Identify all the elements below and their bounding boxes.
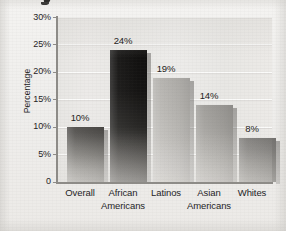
bar-whites[interactable] — [239, 138, 276, 182]
bar-african-americans[interactable] — [110, 50, 147, 182]
bar-overall-shadow — [104, 130, 108, 184]
plot-area — [57, 17, 272, 182]
bar-value-asian-americans: 14% — [189, 90, 229, 101]
bar-overall-fill — [67, 127, 104, 182]
y-axis-title: Percentage — [22, 69, 32, 113]
bar-value-whites: 8% — [232, 123, 272, 134]
x-label-whites-line-1: Whites — [227, 187, 277, 200]
bar-latinos-fill — [153, 78, 190, 182]
chart-screenshot: 30% 25% 20% 15% 10% 5% 0 Percentage — [0, 0, 286, 231]
gridline-30 — [57, 17, 272, 18]
bar-value-african-americans: 24% — [103, 35, 143, 46]
bar-overall[interactable] — [67, 127, 104, 182]
y-axis-title-wrap: Percentage — [22, 0, 36, 231]
y-axis-line — [56, 16, 58, 183]
y-tick-label-5: 5% — [38, 149, 51, 159]
x-label-african-americans-line-2: Americans — [98, 200, 148, 213]
x-axis-line — [56, 182, 273, 184]
bar-asian-americans[interactable] — [196, 105, 233, 182]
bar-african-americans-fill — [110, 50, 147, 182]
bar-value-overall: 10% — [60, 112, 100, 123]
bar-whites-fill — [239, 138, 276, 182]
gridline-25 — [57, 44, 272, 45]
x-label-whites: Whites — [227, 187, 277, 200]
x-label-asian-americans-line-2: Americans — [184, 200, 234, 213]
bar-value-latinos: 19% — [146, 63, 186, 74]
bar-asian-americans-fill — [196, 105, 233, 182]
y-tick-label-0: 0 — [46, 176, 51, 186]
bar-latinos[interactable] — [153, 78, 190, 182]
bar-asian-americans-shadow — [233, 108, 237, 184]
bar-whites-shadow — [276, 141, 280, 184]
